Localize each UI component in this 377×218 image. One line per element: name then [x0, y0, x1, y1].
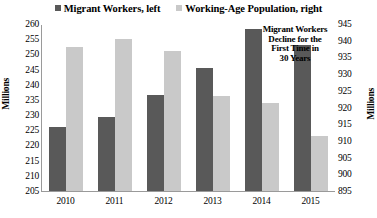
bar-migrant-workers[interactable] — [196, 68, 213, 191]
axis-tick-label: 260 — [25, 20, 39, 30]
axis-tick-label: 220 — [25, 141, 39, 151]
axis-tick-label: 240 — [25, 81, 39, 91]
axis-tick-label: 245 — [25, 66, 39, 76]
axis-tick-label: 930 — [338, 70, 352, 80]
bar-working-age-population[interactable] — [164, 51, 181, 191]
legend-swatch-migrant-workers — [55, 5, 61, 11]
axis-tick-label: 945 — [338, 20, 352, 30]
bar-working-age-population[interactable] — [311, 136, 328, 191]
axis-tick-label: 920 — [338, 104, 352, 114]
axis-tick-label: 205 — [25, 187, 39, 197]
axis-tick-label: 235 — [25, 96, 39, 106]
bar-migrant-workers[interactable] — [294, 45, 311, 191]
x-axis-tick-labels: 201020112012201320142015 — [41, 196, 335, 212]
x-axis-tick-label: 2010 — [43, 196, 89, 212]
axis-tick-label: 255 — [25, 35, 39, 45]
x-axis-tick-label: 2014 — [239, 196, 285, 212]
chart-legend: Migrant Workers, left Working-Age Popula… — [0, 1, 377, 15]
axis-tick-label: 900 — [338, 170, 352, 180]
axis-tick-label: 935 — [338, 53, 352, 63]
axis-tick-label: 910 — [338, 137, 352, 147]
axis-tick-label: 215 — [25, 157, 39, 167]
axis-tick-label: 225 — [25, 126, 39, 136]
axis-tick-label: 230 — [25, 111, 39, 121]
y-axis-left-ticks: 260255250245240235230225220215210205 — [17, 0, 39, 218]
bar-migrant-workers[interactable] — [147, 95, 164, 191]
axis-tick-label: 250 — [25, 50, 39, 60]
y-axis-right-ticks: 945940935930925920915910905900895 — [338, 0, 360, 218]
axis-tick-label: 210 — [25, 172, 39, 182]
bar-working-age-population[interactable] — [262, 103, 279, 192]
x-axis-tick-label: 2013 — [190, 196, 236, 212]
bar-migrant-workers[interactable] — [98, 117, 115, 191]
legend-entry-working-age-population[interactable]: Working-Age Population, right — [176, 3, 322, 14]
y-axis-left-title: Millions — [1, 78, 11, 110]
x-axis-tick-label: 2015 — [288, 196, 334, 212]
axis-tick-label: 895 — [338, 187, 352, 197]
bar-working-age-population[interactable] — [115, 39, 132, 191]
bar-working-age-population[interactable] — [66, 47, 83, 191]
legend-swatch-working-age-population — [176, 5, 182, 11]
axis-tick-label: 940 — [338, 37, 352, 47]
y-axis-right-title: Millions — [366, 88, 376, 120]
bar-migrant-workers[interactable] — [49, 127, 66, 191]
legend-entry-migrant-workers[interactable]: Migrant Workers, left — [55, 3, 161, 14]
bar-group — [196, 25, 230, 191]
legend-label-migrant-workers: Migrant Workers, left — [64, 3, 161, 14]
bar-group — [98, 25, 132, 191]
axis-tick-label: 925 — [338, 87, 352, 97]
bar-working-age-population[interactable] — [213, 96, 230, 191]
axis-tick-label: 905 — [338, 154, 352, 164]
annotation-line: 30 Years — [252, 54, 338, 64]
x-axis-tick-label: 2012 — [141, 196, 187, 212]
bar-group — [147, 25, 181, 191]
chart-annotation: Migrant WorkersDecline for theFirst Time… — [252, 25, 338, 63]
chart-container: Migrant Workers, left Working-Age Popula… — [0, 0, 377, 218]
bar-group — [49, 25, 83, 191]
axis-tick-label: 915 — [338, 120, 352, 130]
legend-label-working-age-population: Working-Age Population, right — [185, 3, 322, 14]
x-axis-tick-label: 2011 — [92, 196, 138, 212]
